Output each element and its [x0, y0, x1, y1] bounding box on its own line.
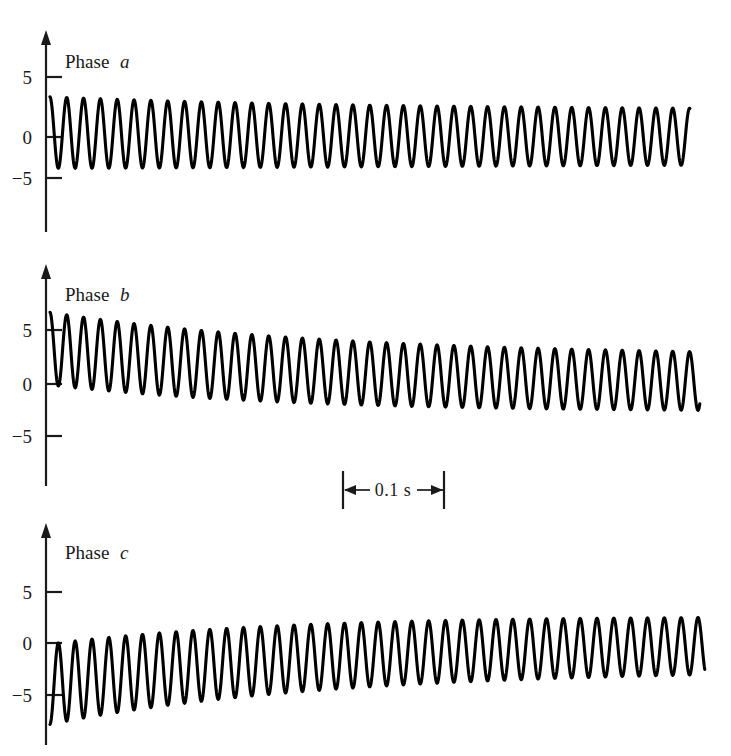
panel-label-phase-b: Phase b	[65, 284, 130, 305]
time-scale-marker: 0.1 s	[343, 471, 444, 509]
waveform-trace-phase-b	[50, 312, 700, 410]
y-tick-label-neg5-phase-a: −5	[12, 168, 32, 189]
panel-label-phase-a: Phase a	[65, 51, 130, 72]
panel-label-prefix-phase-c: Phase	[65, 542, 109, 563]
panel-label-letter-phase-b: b	[120, 284, 130, 305]
panel-label-prefix-phase-b: Phase	[65, 284, 109, 305]
waveform-trace-phase-c	[50, 618, 705, 725]
panel-label-letter-phase-c: c	[120, 542, 129, 563]
panel-label-prefix-phase-a: Phase	[65, 51, 109, 72]
time-scale-right-arrow-head	[431, 485, 443, 495]
y-tick-label-0-phase-c: 0	[23, 633, 33, 654]
y-tick-label-0-phase-a: 0	[23, 127, 33, 148]
y-tick-label-5-phase-a: 5	[23, 67, 33, 88]
y-axis-arrowhead-phase-a	[41, 30, 51, 45]
y-tick-label-5-phase-c: 5	[23, 582, 33, 603]
y-tick-label-5-phase-b: 5	[23, 320, 33, 341]
figure-container: 5 0 −5 Phase a 5 0 −5 Phase b	[0, 0, 731, 756]
waveform-figure: 5 0 −5 Phase a 5 0 −5 Phase b	[0, 0, 731, 756]
time-scale-label: 0.1 s	[375, 480, 412, 500]
y-tick-label-0-phase-b: 0	[23, 374, 33, 395]
y-axis-phase-a	[41, 30, 62, 232]
panel-phase-a: 5 0 −5 Phase a	[12, 30, 690, 232]
panel-label-phase-c: Phase c	[65, 542, 129, 563]
panel-label-letter-phase-a: a	[120, 51, 130, 72]
panel-phase-c: 5 0 −5 Phase c	[12, 523, 705, 745]
y-axis-arrowhead-phase-b	[41, 264, 51, 279]
y-tick-label-neg5-phase-c: −5	[12, 685, 32, 706]
panel-phase-b: 5 0 −5 Phase b	[12, 264, 700, 486]
waveform-trace-phase-a	[50, 97, 690, 168]
y-axis-phase-b	[41, 264, 62, 486]
y-tick-label-neg5-phase-b: −5	[12, 426, 32, 447]
y-axis-arrowhead-phase-c	[41, 523, 51, 538]
time-scale-left-arrow-head	[344, 485, 356, 495]
